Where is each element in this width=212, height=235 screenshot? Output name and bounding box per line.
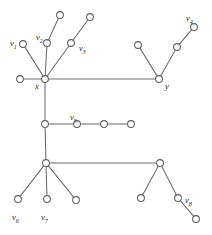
graph-node <box>73 197 80 204</box>
node-label-subscript: 2 <box>40 38 43 44</box>
node-label-v3: v3 <box>79 44 86 53</box>
graph-figure: xyv1v2v3v4v5v6v7v8 <box>0 0 212 235</box>
graph-edge <box>143 166 159 195</box>
graph-edge <box>48 166 74 198</box>
graph-node <box>157 160 164 167</box>
node-label-v7: v7 <box>41 213 48 222</box>
graph-node <box>87 14 94 21</box>
node-label-v2: v2 <box>36 33 43 42</box>
node-label-v4: v4 <box>186 14 193 23</box>
graph-edge <box>140 48 157 76</box>
node-label-subscript: 4 <box>190 19 193 25</box>
graph-node-v2 <box>44 40 51 47</box>
graph-node <box>42 121 49 128</box>
graph-node-v8 <box>175 195 182 202</box>
graph-edge <box>73 20 88 41</box>
graph-node <box>193 216 200 223</box>
graph-node <box>135 42 142 49</box>
graph-node <box>43 160 50 167</box>
node-label-x: x <box>35 82 39 91</box>
node-label-y: y <box>165 82 169 91</box>
graph-edge <box>179 30 192 45</box>
node-label-v5: v5 <box>70 113 77 122</box>
node-label-subscript: 5 <box>74 118 77 124</box>
graph-node <box>174 44 181 51</box>
graph-node-v6 <box>15 196 22 203</box>
graph-node-v3 <box>68 40 75 47</box>
node-label-subscript: 8 <box>189 201 192 207</box>
graph-canvas <box>0 0 212 235</box>
graph-node <box>101 121 108 128</box>
graph-edge <box>45 46 47 75</box>
graph-node-v1 <box>20 41 27 48</box>
graph-edge <box>25 47 43 76</box>
node-label-v6: v6 <box>12 213 19 222</box>
node-label-subscript: 1 <box>14 44 17 50</box>
graph-edge <box>46 166 47 195</box>
graph-edge <box>162 166 177 195</box>
graph-node-y <box>156 76 163 83</box>
graph-edge <box>48 18 58 40</box>
node-label-subscript: 3 <box>83 49 86 55</box>
graph-edge <box>47 46 69 76</box>
graph-node-v7 <box>44 196 51 203</box>
graph-edge <box>161 50 176 76</box>
edges-group <box>20 18 194 216</box>
node-label-v8: v8 <box>185 196 192 205</box>
node-label-v1: v1 <box>10 39 17 48</box>
graph-node <box>128 121 135 128</box>
node-label-subscript: 6 <box>16 218 19 224</box>
graph-edge <box>20 166 44 197</box>
graph-edge <box>45 127 46 159</box>
node-label-subscript: 7 <box>45 218 48 224</box>
graph-node-x <box>42 76 49 83</box>
graph-node <box>138 195 145 202</box>
graph-node <box>17 76 24 83</box>
graph-node <box>57 12 64 19</box>
